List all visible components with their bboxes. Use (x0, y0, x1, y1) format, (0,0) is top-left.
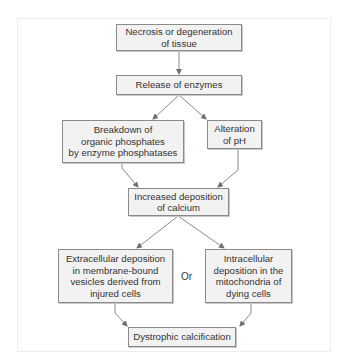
arrow-extracellular-dystrophic (115, 303, 127, 326)
node-extracellular-label: Extracellular deposition in membrane-bou… (66, 253, 165, 299)
node-alteration-ph: Alteration of pH (207, 120, 262, 149)
arrow-breakdown-increased (122, 163, 138, 187)
arrow-intracellular-dystrophic (240, 303, 251, 326)
node-release-label: Release of enzymes (136, 79, 223, 91)
or-label: Or (181, 271, 192, 282)
node-breakdown-label: Breakdown of organic phosphates by enzym… (69, 124, 178, 159)
node-increased-deposition: Increased deposition of calcium (128, 188, 229, 216)
node-necrosis: Necrosis or degeneration of tissue (116, 24, 242, 51)
arrow-increased-intracellular (178, 216, 224, 248)
node-increased-label: Increased deposition of calcium (134, 191, 223, 214)
node-alteration-label: Alteration of pH (214, 123, 255, 146)
node-dystrophic-label: Dystrophic calcification (133, 331, 231, 343)
arrow-release-breakdown (153, 95, 179, 119)
arrow-release-alteration (179, 95, 206, 119)
node-dystrophic-calcification: Dystrophic calcification (128, 327, 236, 347)
flow-arrows (0, 0, 341, 362)
arrow-alteration-increased (218, 149, 238, 187)
node-intracellular: Intracellular deposition in the mitochon… (205, 249, 292, 303)
node-breakdown: Breakdown of organic phosphates by enzym… (62, 120, 184, 163)
node-necrosis-label: Necrosis or degeneration of tissue (125, 26, 232, 49)
node-extracellular: Extracellular deposition in membrane-bou… (58, 249, 173, 303)
arrow-increased-extracellular (137, 216, 178, 248)
node-release-enzymes: Release of enzymes (116, 75, 242, 95)
node-intracellular-label: Intracellular deposition in the mitochon… (214, 253, 284, 299)
